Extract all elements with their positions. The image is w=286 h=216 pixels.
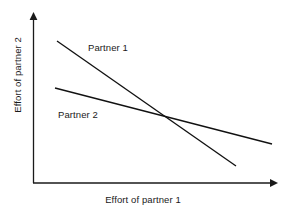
partner-1-line [57,41,236,166]
x-axis-arrow-icon [270,179,278,187]
x-axis-title: Effort of partner 1 [0,195,286,205]
effort-best-response-figure: Partner 1 Partner 2 Effort of partner 1 … [0,0,286,216]
y-axis-arrow-icon [30,12,38,20]
partner-2-label: Partner 2 [58,110,98,120]
y-axis-title: Effort of partner 2 [13,77,23,113]
plot-canvas [0,0,286,216]
partner-1-label: Partner 1 [88,43,128,53]
